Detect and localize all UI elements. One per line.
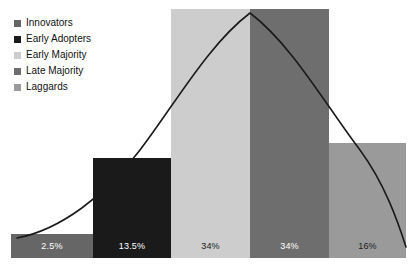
bar-early-majority[interactable] <box>171 9 250 258</box>
legend-label: Late Majority <box>26 65 83 77</box>
bar-late-majority[interactable] <box>250 9 329 258</box>
legend-swatch-icon <box>14 20 21 27</box>
legend-swatch-icon <box>14 84 21 91</box>
legend-item-innovators[interactable]: Innovators <box>14 15 91 31</box>
bar-label-laggards: 16% <box>329 241 406 252</box>
legend-label: Early Adopters <box>26 33 91 45</box>
diffusion-of-innovations-chart: 2.5% 13.5% 34% 34% 16% Innovators Early … <box>0 0 417 268</box>
legend-swatch-icon <box>14 52 21 59</box>
bar-label-early-majority: 34% <box>171 241 250 252</box>
bar-label-innovators: 2.5% <box>11 241 93 252</box>
legend-item-early-majority[interactable]: Early Majority <box>14 47 91 63</box>
legend-label: Innovators <box>26 17 73 29</box>
chart-legend: Innovators Early Adopters Early Majority… <box>14 15 91 95</box>
legend-item-laggards[interactable]: Laggards <box>14 79 91 95</box>
legend-item-late-majority[interactable]: Late Majority <box>14 63 91 79</box>
legend-item-early-adopters[interactable]: Early Adopters <box>14 31 91 47</box>
legend-swatch-icon <box>14 36 21 43</box>
bar-label-late-majority: 34% <box>250 241 329 252</box>
legend-swatch-icon <box>14 68 21 75</box>
bar-label-early-adopters: 13.5% <box>93 241 171 252</box>
legend-label: Laggards <box>26 81 68 93</box>
legend-label: Early Majority <box>26 49 87 61</box>
